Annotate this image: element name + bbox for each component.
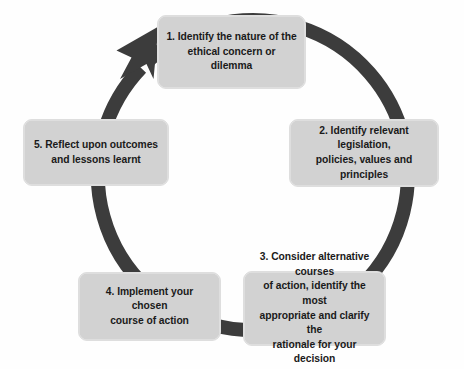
step-box-1[interactable]: 1. Identify the nature of the ethical co… bbox=[157, 15, 306, 89]
step-box-2[interactable]: 2. Identify relevant legislation, polici… bbox=[289, 119, 439, 187]
step-label-3: 3. Consider alternative courses of actio… bbox=[252, 250, 377, 367]
step-label-5: 5. Reflect upon outcomes and lessons lea… bbox=[34, 138, 158, 167]
step-label-1: 1. Identify the nature of the ethical co… bbox=[166, 30, 297, 74]
step-box-3[interactable]: 3. Consider alternative courses of actio… bbox=[243, 271, 386, 346]
step-label-2: 2. Identify relevant legislation, polici… bbox=[298, 124, 430, 182]
step-label-4: 4. Implement your chosen course of actio… bbox=[87, 285, 212, 329]
cycle-diagram: 1. Identify the nature of the ethical co… bbox=[0, 0, 464, 369]
step-box-5[interactable]: 5. Reflect upon outcomes and lessons lea… bbox=[23, 119, 169, 186]
step-box-4[interactable]: 4. Implement your chosen course of actio… bbox=[78, 272, 221, 341]
